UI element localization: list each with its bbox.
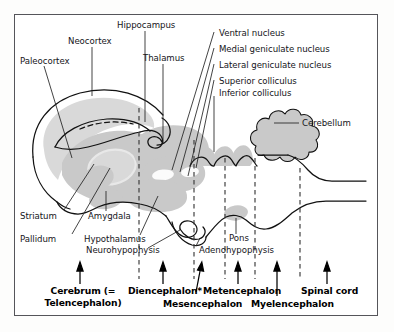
- arrow-cerebrum: [77, 262, 83, 284]
- label-hypothalamus: Hypothalamus: [84, 234, 146, 244]
- hypothalamus-shade: [126, 179, 187, 212]
- label-spinal-cord: Spinal cord: [301, 285, 358, 296]
- label-diencephalon: Diencephalon*: [128, 285, 202, 296]
- colliculus-bump-3: [232, 145, 253, 166]
- brain-diagram-svg: [0, 0, 394, 332]
- label-cerebrum-line1: Cerebrum (=: [51, 285, 116, 296]
- label-medial-geniculate-nucleus: Medial geniculate nucleus: [219, 44, 330, 54]
- label-striatum: Striatum: [20, 211, 57, 221]
- label-paleocortex: Paleocortex: [20, 56, 70, 66]
- label-cerebrum-telencephalon: Cerebrum (= Telencephalon): [40, 285, 126, 309]
- label-thalamus: Thalamus: [143, 53, 185, 63]
- label-mesencephalon: Mesencephalon: [163, 298, 242, 309]
- label-neurohypophysis: Neurohypophysis: [86, 245, 160, 255]
- label-cerebrum-line2: Telencephalon): [45, 297, 122, 308]
- neurohypophysis-loop: [172, 222, 206, 246]
- figure-root: Paleocortex Neocortex Hippocampus Thalam…: [0, 0, 394, 332]
- pituitary-stalk: [166, 216, 197, 237]
- label-neocortex: Neocortex: [68, 36, 112, 46]
- adenohypophysis-loop: [180, 227, 205, 239]
- label-ventral-nucleus: Ventral nucleus: [219, 28, 285, 38]
- label-cerebellum: Cerebellum: [302, 118, 351, 128]
- label-myelencephalon: Myelencephalon: [251, 298, 334, 309]
- label-lateral-geniculate-nucleus: Lateral geniculate nucleus: [219, 60, 331, 70]
- label-adenohypophysis: Adenohypophysis: [199, 245, 274, 255]
- label-amygdala: Amygdala: [88, 211, 131, 221]
- label-pallidum: Pallidum: [20, 234, 56, 244]
- arrow-spinal-cord: [324, 262, 330, 284]
- shaded-structures: [43, 98, 319, 222]
- label-inferior-colliculus: Inferior colliculus: [219, 88, 291, 98]
- label-metencephalon: Metencephalon: [203, 285, 281, 296]
- label-pons: Pons: [229, 233, 249, 243]
- label-hippocampus: Hippocampus: [117, 20, 175, 30]
- label-superior-colliculus: Superior colliculus: [219, 76, 297, 86]
- arrow-metencephalon: [235, 262, 241, 284]
- arrow-diencephalon: [160, 262, 166, 284]
